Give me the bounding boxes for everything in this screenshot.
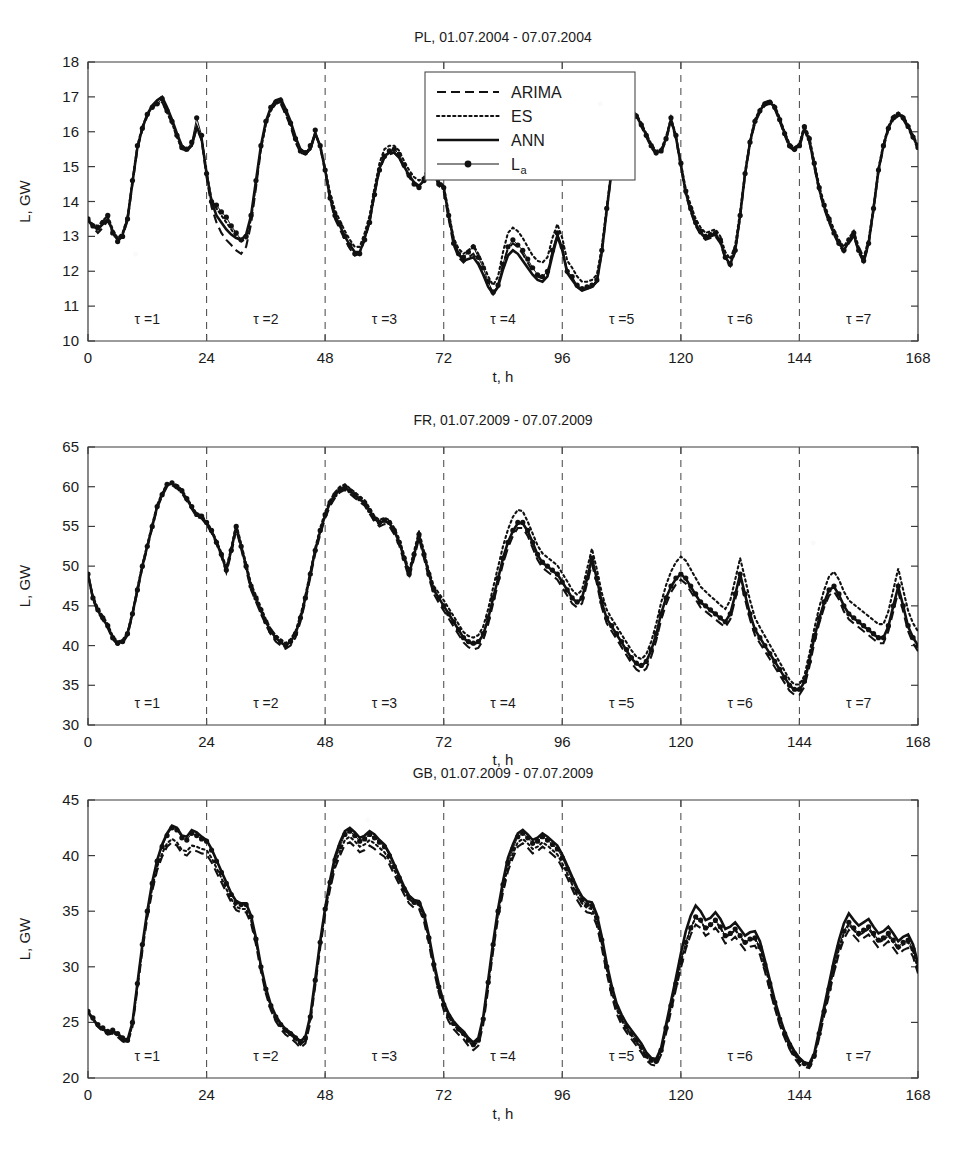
series-marker-la bbox=[0, 647, 3, 652]
series-marker-la bbox=[0, 651, 3, 656]
series-marker-la bbox=[224, 215, 229, 220]
legend-label-ann: ANN bbox=[511, 132, 545, 149]
y-tick-label: 12 bbox=[62, 262, 79, 279]
series-marker-la bbox=[505, 244, 510, 249]
day-label: τ =3 bbox=[372, 311, 398, 327]
series-marker-la bbox=[357, 839, 362, 844]
x-tick-label: 168 bbox=[905, 349, 930, 366]
series-marker-la bbox=[0, 900, 3, 905]
chart-title: PL, 01.07.2004 - 07.07.2004 bbox=[414, 29, 592, 45]
series-line-ann bbox=[88, 484, 918, 691]
day-label: τ =5 bbox=[609, 695, 635, 711]
y-tick-label: 10 bbox=[62, 332, 79, 349]
day-label: τ =4 bbox=[490, 695, 516, 711]
day-label: τ =2 bbox=[253, 695, 279, 711]
series-marker-la bbox=[0, 647, 3, 652]
series-marker-la bbox=[0, 839, 3, 844]
series-marker-la bbox=[0, 840, 3, 845]
series-marker-la bbox=[0, 1033, 3, 1038]
series-marker-la bbox=[0, 940, 3, 945]
series-line-arima bbox=[88, 485, 918, 695]
x-tick-label: 96 bbox=[554, 349, 571, 366]
series-marker-la bbox=[0, 880, 3, 885]
series-marker-la bbox=[184, 837, 189, 842]
x-tick-label: 24 bbox=[198, 1086, 215, 1103]
series-marker-la bbox=[886, 931, 891, 936]
x-tick-label: 48 bbox=[317, 349, 334, 366]
y-tick-label: 16 bbox=[62, 123, 79, 140]
y-tick-label: 40 bbox=[62, 637, 79, 654]
day-label: τ =7 bbox=[846, 311, 872, 327]
series-marker-la bbox=[0, 579, 3, 584]
day-label: τ =2 bbox=[253, 311, 279, 327]
chart-gb: GB, 01.07.2009 - 07.07.20092025303540450… bbox=[0, 745, 968, 1155]
chart-fr: FR, 01.07.2009 - 07.07.20093035404550556… bbox=[0, 385, 968, 770]
y-tick-label: 25 bbox=[62, 1013, 79, 1030]
series-marker-la bbox=[0, 864, 3, 869]
series-marker-la bbox=[0, 1002, 3, 1007]
day-label: τ =1 bbox=[135, 695, 161, 711]
series-marker-la bbox=[0, 216, 3, 221]
series-marker-la bbox=[0, 516, 3, 521]
series-marker-la bbox=[0, 508, 3, 513]
series-marker-la bbox=[0, 129, 3, 134]
day-label: τ =4 bbox=[490, 311, 516, 327]
y-tick-label: 40 bbox=[62, 847, 79, 864]
series-marker-la bbox=[0, 836, 3, 841]
series-marker-la bbox=[392, 147, 397, 152]
y-tick-label: 65 bbox=[62, 438, 79, 455]
legend-label-arima: ARIMA bbox=[511, 84, 562, 101]
day-label: τ =5 bbox=[609, 311, 635, 327]
x-tick-label: 96 bbox=[554, 1086, 571, 1103]
series-marker-la bbox=[846, 920, 851, 925]
series-marker-la bbox=[0, 560, 3, 565]
x-tick-label: 48 bbox=[317, 1086, 334, 1103]
series-marker-la bbox=[0, 836, 3, 841]
day-label: τ =6 bbox=[727, 695, 753, 711]
series-marker-la bbox=[0, 1044, 3, 1049]
figure-root: PL, 01.07.2004 - 07.07.20041011121314151… bbox=[0, 0, 968, 1155]
series-marker-la bbox=[0, 575, 3, 580]
series-marker-la bbox=[0, 544, 3, 549]
legend-label-la: L bbox=[511, 156, 520, 173]
y-tick-label: 55 bbox=[62, 517, 79, 534]
series-marker-la bbox=[0, 540, 3, 545]
x-tick-label: 120 bbox=[668, 349, 693, 366]
series-marker-la bbox=[0, 948, 3, 953]
series-marker-la bbox=[0, 842, 3, 847]
series-marker-la bbox=[0, 833, 3, 838]
series-marker-la bbox=[0, 627, 3, 632]
series-marker-la bbox=[0, 520, 3, 525]
y-tick-label: 35 bbox=[62, 676, 79, 693]
panel-gb: GB, 01.07.2009 - 07.07.20092025303540450… bbox=[0, 745, 968, 1155]
x-tick-label: 144 bbox=[787, 1086, 812, 1103]
chart-title: GB, 01.07.2009 - 07.07.2009 bbox=[413, 765, 594, 781]
series-marker-la bbox=[0, 147, 3, 152]
series-marker-la bbox=[0, 556, 3, 561]
day-label: τ =3 bbox=[372, 1048, 398, 1064]
series-marker-la bbox=[0, 174, 3, 179]
series-marker-la bbox=[0, 544, 3, 549]
y-tick-label: 45 bbox=[62, 597, 79, 614]
x-tick-label: 72 bbox=[435, 1086, 452, 1103]
series-marker-la bbox=[0, 918, 3, 923]
legend: ARIMAESANNLa bbox=[425, 72, 635, 180]
series-marker-la bbox=[0, 152, 3, 157]
legend-label-sub-la: a bbox=[521, 164, 528, 176]
legend-marker-la bbox=[465, 161, 472, 168]
series-marker-la bbox=[0, 1019, 3, 1024]
series-marker-la bbox=[0, 556, 3, 561]
series-marker-la bbox=[0, 655, 3, 660]
y-tick-label: 35 bbox=[62, 902, 79, 919]
series-marker-la bbox=[0, 147, 3, 152]
series-marker-la bbox=[0, 536, 3, 541]
series-marker-la bbox=[0, 914, 3, 919]
series-marker-la bbox=[530, 841, 535, 846]
series-marker-la bbox=[0, 568, 3, 573]
series-marker-la bbox=[0, 991, 3, 996]
x-tick-label: 0 bbox=[84, 349, 92, 366]
series-marker-la bbox=[194, 115, 199, 120]
y-tick-label: 15 bbox=[62, 158, 79, 175]
y-tick-label: 20 bbox=[62, 1069, 79, 1086]
y-tick-label: 30 bbox=[62, 716, 79, 733]
